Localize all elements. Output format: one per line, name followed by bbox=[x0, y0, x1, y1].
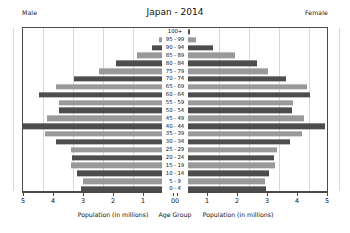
female-bar-cell bbox=[188, 122, 327, 130]
age-group-label: 85 - 89 bbox=[162, 52, 188, 60]
male-bar bbox=[137, 53, 162, 58]
axis-tick-label: 1 bbox=[205, 197, 209, 205]
gridline bbox=[13, 28, 14, 191]
male-bar bbox=[99, 69, 162, 74]
age-group-label: 30 - 34 bbox=[162, 138, 188, 146]
gridline bbox=[339, 28, 340, 191]
axis-tick-label: 5 bbox=[325, 197, 329, 205]
age-group-label: 5 - 9 bbox=[162, 177, 188, 185]
male-bar-cell bbox=[23, 107, 162, 115]
axis-tick bbox=[207, 192, 208, 196]
male-bar bbox=[116, 61, 163, 66]
axis-tick bbox=[53, 192, 54, 196]
male-bar-cell bbox=[23, 44, 162, 52]
age-group-label: 90 - 94 bbox=[162, 44, 188, 52]
female-bar bbox=[188, 69, 268, 74]
pyramid-row: 30 - 34 bbox=[23, 138, 327, 146]
pyramid-row: 70 - 74 bbox=[23, 75, 327, 83]
female-bar bbox=[188, 139, 290, 144]
male-bar-cell bbox=[23, 52, 162, 60]
pyramid-row: 90 - 94 bbox=[23, 44, 327, 52]
female-bar-cell bbox=[188, 169, 327, 177]
male-bar bbox=[59, 100, 163, 105]
male-bar-cell bbox=[23, 75, 162, 83]
male-bar-cell bbox=[23, 177, 162, 185]
male-bar bbox=[152, 45, 163, 50]
axis-tick bbox=[113, 192, 114, 196]
center-axis-caption: Age Group bbox=[159, 211, 192, 218]
age-group-label: 25 - 29 bbox=[162, 146, 188, 154]
axis-tick-label: 3 bbox=[81, 197, 85, 205]
plot-inner: 100+95 - 9990 - 9485 - 8980 - 8475 - 797… bbox=[23, 28, 327, 191]
male-bar bbox=[47, 116, 163, 121]
female-bar-cell bbox=[188, 52, 327, 60]
axis-tick-label: 1 bbox=[141, 197, 145, 205]
pyramid-row: 45 - 49 bbox=[23, 114, 327, 122]
female-bar bbox=[188, 131, 302, 136]
female-bar-cell bbox=[188, 83, 327, 91]
age-group-label: 60 - 64 bbox=[162, 91, 188, 99]
female-bar bbox=[188, 163, 275, 168]
age-group-label: 100+ bbox=[162, 28, 188, 36]
female-bar bbox=[188, 116, 304, 121]
male-bar-cell bbox=[23, 67, 162, 75]
male-bar bbox=[71, 147, 163, 152]
female-bar bbox=[188, 84, 307, 89]
female-bar-cell bbox=[188, 75, 327, 83]
pyramid-row: 100+ bbox=[23, 28, 327, 36]
age-group-label: 45 - 49 bbox=[162, 114, 188, 122]
age-group-label: 15 - 19 bbox=[162, 162, 188, 170]
female-bar-cell bbox=[188, 36, 327, 44]
axis-tick-label: 0 bbox=[175, 197, 179, 205]
age-group-label: 80 - 84 bbox=[162, 59, 188, 67]
male-bar bbox=[23, 124, 163, 129]
age-group-label: 75 - 79 bbox=[162, 67, 188, 75]
population-pyramid-chart: Male Female Japan - 2014 100+95 - 9990 -… bbox=[0, 0, 350, 233]
right-axis-line bbox=[177, 192, 328, 193]
female-bar bbox=[188, 179, 265, 184]
pyramid-row: 50 - 54 bbox=[23, 107, 327, 115]
female-bar bbox=[188, 186, 266, 191]
male-bar bbox=[39, 92, 162, 97]
plot-area: 100+95 - 9990 - 9485 - 8980 - 8475 - 797… bbox=[22, 27, 328, 192]
female-bar bbox=[188, 124, 325, 129]
female-bar bbox=[188, 53, 235, 58]
axis-tick-label: 4 bbox=[295, 197, 299, 205]
male-bar-cell bbox=[23, 28, 162, 36]
age-group-label: 10 - 14 bbox=[162, 169, 188, 177]
age-group-label: 95 - 99 bbox=[162, 36, 188, 44]
male-bar-cell bbox=[23, 59, 162, 67]
axis-tick bbox=[83, 192, 84, 196]
pyramid-row: 85 - 89 bbox=[23, 52, 327, 60]
female-bar-cell bbox=[188, 138, 327, 146]
female-bar-cell bbox=[188, 59, 327, 67]
female-bar-cell bbox=[188, 44, 327, 52]
male-bar-cell bbox=[23, 169, 162, 177]
male-bar-cell bbox=[23, 122, 162, 130]
axis-tick-label: 5 bbox=[21, 197, 25, 205]
male-bar-cell bbox=[23, 99, 162, 107]
female-bar bbox=[188, 155, 274, 160]
age-group-label: 20 - 24 bbox=[162, 154, 188, 162]
age-group-label: 55 - 59 bbox=[162, 99, 188, 107]
male-bar-cell bbox=[23, 162, 162, 170]
male-bar bbox=[56, 84, 163, 89]
female-bar-cell bbox=[188, 146, 327, 154]
female-bar bbox=[188, 100, 293, 105]
axis-tick bbox=[237, 192, 238, 196]
female-bar-cell bbox=[188, 114, 327, 122]
male-bar-cell bbox=[23, 83, 162, 91]
pyramid-row: 75 - 79 bbox=[23, 67, 327, 75]
age-group-label: 65 - 69 bbox=[162, 83, 188, 91]
left-axis-caption: Population (in millions) bbox=[78, 211, 149, 218]
male-bar bbox=[81, 186, 162, 191]
male-bar-cell bbox=[23, 36, 162, 44]
male-bar bbox=[59, 108, 163, 113]
pyramid-row: 95 - 99 bbox=[23, 36, 327, 44]
male-bar bbox=[74, 76, 163, 81]
axis-tick bbox=[267, 192, 268, 196]
pyramid-row: 10 - 14 bbox=[23, 169, 327, 177]
male-bar-cell bbox=[23, 130, 162, 138]
male-bar bbox=[71, 163, 163, 168]
pyramid-row: 80 - 84 bbox=[23, 59, 327, 67]
